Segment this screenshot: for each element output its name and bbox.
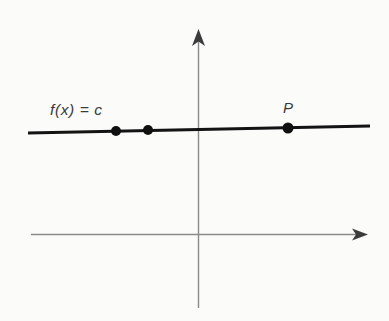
point-label-p: P <box>283 99 293 116</box>
point-marker-1 <box>111 126 121 136</box>
math-figure-canvas: f(x) = c P <box>0 0 389 321</box>
point-marker-2 <box>143 125 153 135</box>
point-marker-p <box>283 123 294 134</box>
function-label: f(x) = c <box>50 101 103 118</box>
figure-background <box>0 0 389 321</box>
coordinate-plane-diagram: f(x) = c P <box>0 0 389 321</box>
